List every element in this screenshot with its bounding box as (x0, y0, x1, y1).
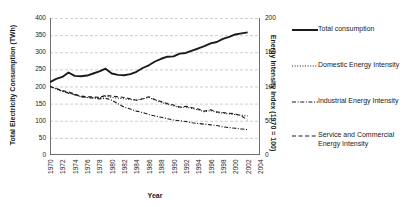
y-axis-left-ticklabel: 0 (24, 151, 46, 158)
y-axis-left-title: Total Electricity Consumption (TWh) (9, 10, 16, 160)
y-axis-left-ticklabel: 300 (24, 48, 46, 55)
x-axis-ticklabel: 1990 (170, 160, 177, 184)
plot-area (50, 18, 260, 155)
x-axis-ticklabel: 1992 (182, 160, 189, 184)
x-axis-ticklabel: 2002 (244, 160, 251, 184)
legend-label: Total consumption (318, 24, 374, 33)
y-axis-right-ticklabel: 150 (265, 48, 287, 55)
chart-figure: Total Electricity Consumption (TWh) Ener… (0, 0, 416, 207)
x-axis-ticklabel: 1970 (47, 160, 54, 184)
x-axis-ticklabel: 1994 (195, 160, 202, 184)
y-axis-right-ticklabel: 0 (265, 151, 287, 158)
series-line-0 (50, 32, 248, 82)
legend-label: Domestic Energy Intensity (318, 60, 399, 69)
x-axis-ticklabel: 1984 (133, 160, 140, 184)
y-axis-left-ticklabel: 100 (24, 117, 46, 124)
legend-key-solid-icon (292, 28, 318, 32)
x-axis-ticklabel: 1972 (59, 160, 66, 184)
x-axis-ticklabel: 1986 (145, 160, 152, 184)
y-axis-right-ticklabel: 50 (265, 117, 287, 124)
legend-label: Industrial Energy Intensity (318, 96, 399, 105)
y-axis-left-ticklabel: 50 (24, 134, 46, 141)
plot-svg (50, 18, 260, 155)
x-axis-ticklabel: 1996 (207, 160, 214, 184)
y-axis-left-ticklabel: 350 (24, 31, 46, 38)
x-axis-ticklabel: 1982 (121, 160, 128, 184)
x-axis-ticklabel: 2000 (232, 160, 239, 184)
legend-item: Service and Commercial Energy Intensity (292, 130, 416, 148)
x-axis-title: Year (50, 192, 260, 199)
x-axis-ticklabel: 1976 (84, 160, 91, 184)
y-axis-left-ticklabel: 400 (24, 14, 46, 21)
legend-key-dashed-icon (292, 134, 318, 138)
legend-item: Total consumption (292, 24, 374, 33)
legend-item: Domestic Energy Intensity (292, 60, 399, 69)
x-axis-ticklabel: 1974 (71, 160, 78, 184)
x-axis-ticklabel: 2004 (257, 160, 264, 184)
y-axis-left-ticklabel: 150 (24, 100, 46, 107)
legend-item: Industrial Energy Intensity (292, 96, 399, 105)
y-axis-right-ticklabel: 100 (265, 83, 287, 90)
y-axis-left-ticklabel: 200 (24, 83, 46, 90)
y-axis-left-ticklabel: 250 (24, 65, 46, 72)
x-axis-ticklabel: 1988 (158, 160, 165, 184)
x-axis-ticklabel: 1978 (96, 160, 103, 184)
y-axis-right-ticklabel: 200 (265, 14, 287, 21)
x-axis-ticklabel: 1998 (219, 160, 226, 184)
series-line-2 (50, 87, 248, 130)
legend-label: Service and Commercial Energy Intensity (318, 130, 416, 148)
y-axis-right-title: Energy Intensity Index (1970 = 100) (270, 18, 277, 168)
legend-key-dashdot-icon (292, 100, 318, 104)
x-axis-ticklabel: 1980 (108, 160, 115, 184)
legend-key-dotted-icon (292, 64, 318, 68)
